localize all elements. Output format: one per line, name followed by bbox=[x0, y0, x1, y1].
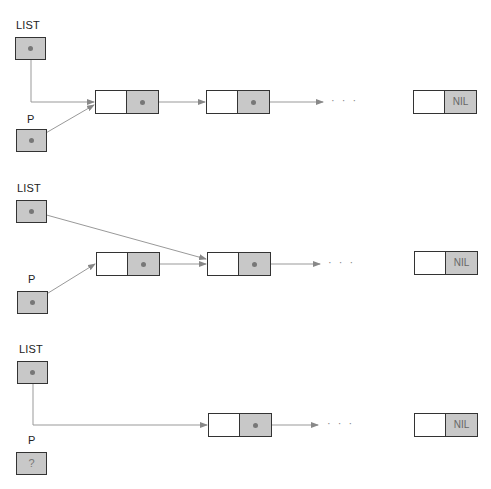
undefined-value: ? bbox=[17, 457, 46, 469]
node-next-field bbox=[128, 253, 159, 275]
pointer-dot-icon bbox=[252, 262, 257, 267]
nil-node: NIL bbox=[414, 413, 478, 437]
nil-label: NIL bbox=[445, 96, 476, 107]
list-pointer-label: LIST bbox=[19, 343, 43, 355]
node-data-field bbox=[415, 252, 446, 274]
pointer-dot-icon bbox=[29, 138, 34, 143]
node-data-field bbox=[415, 414, 446, 436]
pointer-dot-icon bbox=[141, 262, 146, 267]
node-data-field bbox=[414, 91, 445, 113]
p-pointer-box bbox=[16, 129, 47, 152]
p-pointer-label: P bbox=[28, 434, 36, 446]
node-next-field: NIL bbox=[446, 414, 477, 436]
node-next-field: NIL bbox=[446, 252, 477, 274]
pointer-dot-icon bbox=[30, 300, 35, 305]
p-pointer-box-undefined: ? bbox=[16, 452, 47, 475]
node-data-field bbox=[209, 414, 240, 436]
p-pointer-box bbox=[17, 291, 48, 314]
pointer-dot-icon bbox=[253, 423, 258, 428]
nil-node: NIL bbox=[414, 251, 478, 275]
list-pointer-box bbox=[17, 361, 48, 384]
ellipsis: · · · bbox=[328, 256, 355, 268]
node-next-field bbox=[239, 253, 270, 275]
nil-node: NIL bbox=[413, 90, 477, 114]
pointer-dot-icon bbox=[251, 100, 256, 105]
node-next-field bbox=[238, 91, 269, 113]
node-data-field bbox=[97, 253, 128, 275]
ellipsis: · · · bbox=[331, 94, 358, 106]
linked-list-diagram: LIST P · · · NIL LIST P · · · NIL LIST P… bbox=[0, 0, 491, 489]
ellipsis: · · · bbox=[327, 417, 354, 429]
nil-label: NIL bbox=[446, 257, 477, 268]
node-data-field bbox=[208, 253, 239, 275]
pointer-dot-icon bbox=[29, 209, 34, 214]
node-next-field: NIL bbox=[445, 91, 476, 113]
node-data-field bbox=[96, 91, 127, 113]
node-next-field bbox=[240, 414, 271, 436]
node-data-field bbox=[207, 91, 238, 113]
list-node bbox=[96, 252, 160, 276]
list-node bbox=[207, 252, 271, 276]
list-node bbox=[208, 413, 272, 437]
p-pointer-label: P bbox=[28, 273, 36, 285]
list-pointer-label: LIST bbox=[17, 182, 41, 194]
pointer-dot-icon bbox=[140, 100, 145, 105]
pointer-dot-icon bbox=[30, 370, 35, 375]
pointer-dot-icon bbox=[28, 46, 33, 51]
list-pointer-box bbox=[16, 200, 47, 223]
list-node bbox=[95, 90, 159, 114]
list-pointer-box bbox=[15, 37, 46, 60]
list-pointer-label: LIST bbox=[16, 19, 40, 31]
nil-label: NIL bbox=[446, 419, 477, 430]
p-pointer-label: P bbox=[27, 113, 35, 125]
list-node bbox=[206, 90, 270, 114]
node-next-field bbox=[127, 91, 158, 113]
